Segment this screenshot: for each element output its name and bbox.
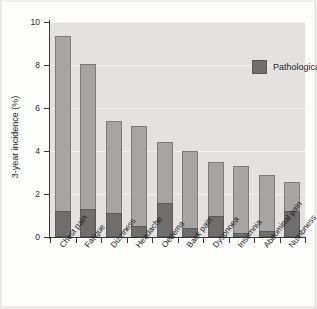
x-tick bbox=[280, 238, 281, 243]
x-tick bbox=[254, 238, 255, 243]
plot-area: Pathological cause bbox=[50, 22, 305, 237]
legend-label-pathological-cause: Pathological cause bbox=[273, 62, 317, 72]
chart-figure: 3-year incidence (%) Pathological cause … bbox=[0, 0, 317, 309]
y-tick bbox=[44, 65, 50, 66]
y-tick-label: 6 bbox=[14, 104, 40, 113]
legend: Pathological cause bbox=[252, 60, 317, 74]
y-tick bbox=[44, 108, 50, 109]
x-tick bbox=[229, 238, 230, 243]
bar-chest-pain[interactable] bbox=[55, 22, 71, 237]
bar-segment-total bbox=[259, 175, 275, 237]
x-tick bbox=[50, 238, 51, 243]
scan-edge-left bbox=[0, 0, 2, 309]
y-tick-label: 4 bbox=[14, 147, 40, 156]
y-axis-title-text: 3-year incidence (%) bbox=[10, 72, 20, 202]
y-tick-label: 8 bbox=[14, 61, 40, 70]
bar-fatigue[interactable] bbox=[80, 22, 96, 237]
bar-abdominal-pain[interactable] bbox=[259, 22, 275, 237]
bar-insomnia[interactable] bbox=[233, 22, 249, 237]
bar-segment-total bbox=[55, 36, 71, 237]
y-tick bbox=[44, 194, 50, 195]
x-tick bbox=[178, 238, 179, 243]
y-tick bbox=[44, 151, 50, 152]
y-tick-label: 0 bbox=[14, 233, 40, 242]
y-tick-label: 10 bbox=[14, 18, 40, 27]
scan-edge-right bbox=[314, 0, 317, 309]
y-tick bbox=[44, 22, 50, 23]
bar-headache[interactable] bbox=[131, 22, 147, 237]
x-tick bbox=[76, 238, 77, 243]
y-axis-line bbox=[49, 20, 50, 239]
bar-dyspnoea[interactable] bbox=[208, 22, 224, 237]
x-tick bbox=[305, 238, 306, 243]
legend-swatch-pathological-cause bbox=[252, 60, 267, 74]
bar-dizziness[interactable] bbox=[106, 22, 122, 237]
bar-back-pain[interactable] bbox=[182, 22, 198, 237]
bar-oedema[interactable] bbox=[157, 22, 173, 237]
scan-edge-top bbox=[0, 0, 317, 2]
x-tick bbox=[127, 238, 128, 243]
x-tick bbox=[101, 238, 102, 243]
y-tick-label: 2 bbox=[14, 190, 40, 199]
x-tick bbox=[203, 238, 204, 243]
x-tick bbox=[152, 238, 153, 243]
